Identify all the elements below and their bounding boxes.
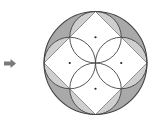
center-dot (94, 88, 96, 90)
center-dot (120, 62, 122, 64)
figure-canvas (0, 0, 152, 121)
center-dot (94, 36, 96, 38)
right-arrow-icon (4, 59, 16, 68)
center-dot (69, 62, 71, 64)
geometry-diagram (0, 0, 152, 121)
